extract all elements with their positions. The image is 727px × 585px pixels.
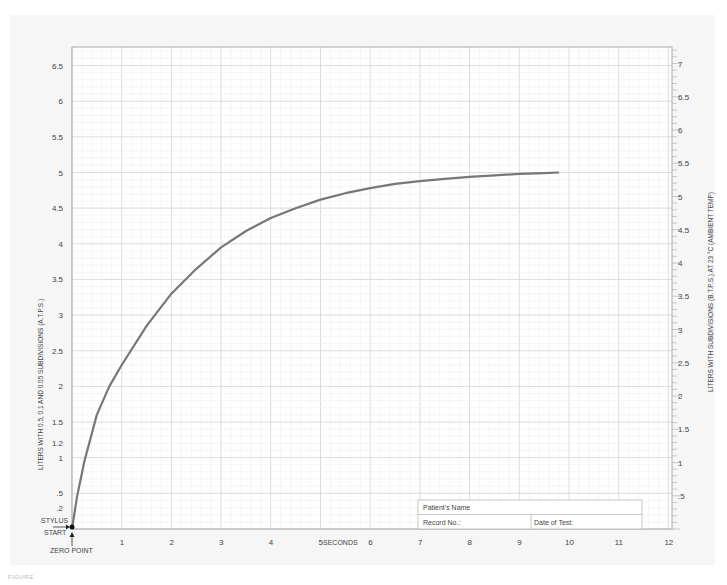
- x-tick-label: 12: [664, 538, 673, 547]
- right-y-tick-label: 5.5: [678, 159, 690, 168]
- left-y-tick-label: 1.5: [52, 418, 64, 427]
- left-axis-label: LITERS WITH 0.5, 0.1 AND 0.05 SUBDIVISIO…: [37, 299, 45, 470]
- right-axis-ruler: [672, 50, 680, 529]
- record-no-label: Record No.:: [423, 519, 460, 526]
- spirogram-chart: 123456789101112 .2.511.21.522.533.544.55…: [0, 0, 727, 585]
- x-tick-label: 9: [517, 538, 522, 547]
- right-y-tick-label: 7: [678, 60, 683, 69]
- right-y-tick-label: 6.5: [678, 93, 690, 102]
- left-y-tick-label: 2.5: [52, 347, 64, 356]
- right-y-tick-label: 4.5: [678, 226, 690, 235]
- right-y-tick-label: 2.5: [678, 359, 690, 368]
- right-y-tick-label: 2: [678, 392, 683, 401]
- left-y-tick-label: .5: [56, 489, 63, 498]
- right-axis-label: LITERS WITH SUBDIVISIONS (B.T.P.S.) AT 2…: [707, 192, 715, 392]
- left-y-tick-label: 6: [59, 97, 64, 106]
- left-y-tick-label: 3.5: [52, 275, 64, 284]
- grid: [72, 47, 672, 529]
- stylus-label: STYLUS: [41, 517, 69, 524]
- right-y-tick-label: 6: [678, 126, 683, 135]
- patient-info-box: Patient's Name Record No.: Date of Test:: [418, 500, 642, 529]
- left-y-tick-label: 5: [59, 169, 64, 178]
- x-tick-label: 10: [565, 538, 574, 547]
- figure-caption: FIGURE: [8, 574, 34, 580]
- right-y-tick-label: .5: [678, 492, 685, 501]
- zero-point-label: ZERO POINT: [50, 547, 94, 554]
- x-tick-label: 2: [169, 538, 174, 547]
- right-y-tick-label: 5: [678, 193, 683, 202]
- left-axis-ticks: .2.511.21.522.533.544.555.566.5: [52, 62, 64, 513]
- left-y-tick-label: 4.5: [52, 204, 64, 213]
- patient-name-label: Patient's Name: [423, 504, 470, 511]
- right-y-tick-label: 1.5: [678, 425, 690, 434]
- x-tick-label: 8: [468, 538, 473, 547]
- x-axis-label: SECONDS: [323, 539, 358, 546]
- left-y-tick-label: .2: [56, 504, 63, 513]
- left-y-tick-label: 1.2: [52, 439, 64, 448]
- x-tick-label: 6: [368, 538, 373, 547]
- stylus-dot: [70, 525, 75, 530]
- x-tick-label: 11: [615, 538, 624, 547]
- left-y-tick-label: 1: [59, 454, 64, 463]
- left-y-tick-label: 6.5: [52, 62, 64, 71]
- right-y-tick-label: 3.5: [678, 292, 690, 301]
- x-tick-label: 3: [219, 538, 224, 547]
- left-y-tick-label: 2: [59, 382, 64, 391]
- right-axis-ticks: .511.522.533.544.555.566.57: [678, 60, 690, 501]
- right-y-tick-label: 4: [678, 259, 683, 268]
- x-tick-label: 7: [418, 538, 423, 547]
- x-tick-label: 1: [120, 538, 125, 547]
- right-y-tick-label: 1: [678, 459, 683, 468]
- left-y-tick-label: 4: [59, 240, 64, 249]
- left-y-tick-label: 5.5: [52, 133, 64, 142]
- date-of-test-label: Date of Test:: [534, 519, 573, 526]
- x-tick-label: 4: [269, 538, 274, 547]
- right-y-tick-label: 3: [678, 326, 683, 335]
- left-y-tick-label: 3: [59, 311, 64, 320]
- x-axis-ticks: 123456789101112: [120, 538, 674, 547]
- stylus-arrowhead-icon: [66, 525, 70, 530]
- start-label: START: [44, 529, 67, 536]
